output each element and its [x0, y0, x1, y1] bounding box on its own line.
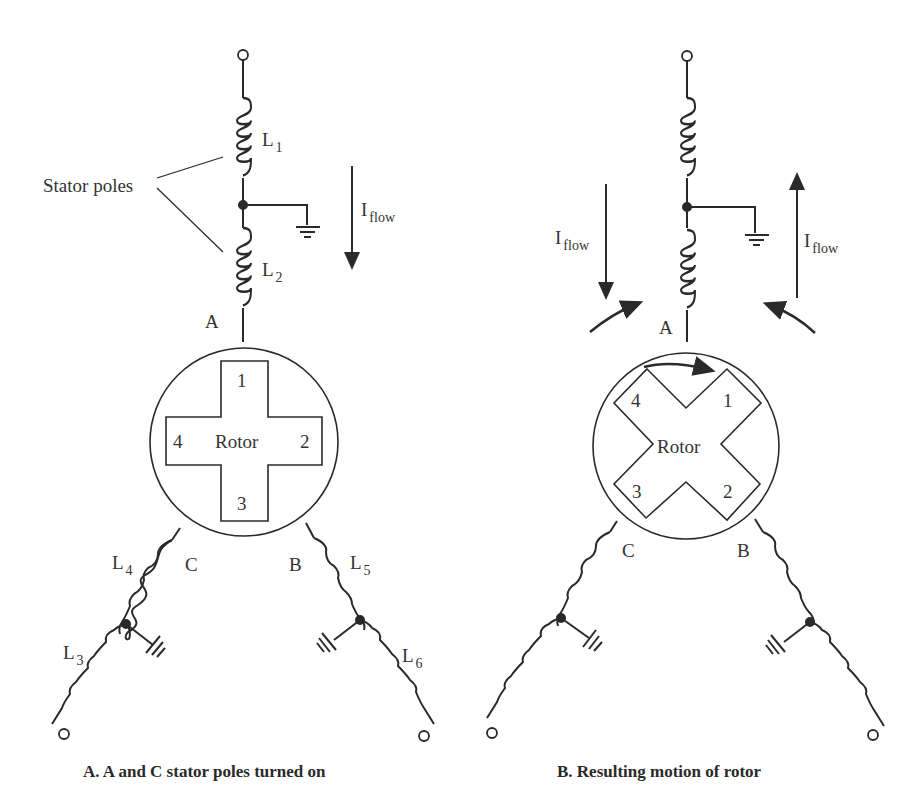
iflow-label-a: Iflow: [361, 200, 395, 219]
caption-b: B. Resulting motion of rotor: [557, 762, 761, 782]
l6-sub: 6: [416, 656, 423, 671]
pole-c-label-b: C: [622, 541, 635, 560]
l1-sub: 1: [276, 140, 283, 155]
rotor-label-b: Rotor: [657, 437, 700, 456]
l5-label: L5: [350, 553, 371, 572]
caption-a: A. A and C stator poles turned on: [83, 762, 325, 782]
stepper-motor-diagram: [0, 0, 921, 799]
pole-b-label-a: B: [289, 555, 302, 574]
rotor-tooth-4-b: 4: [631, 391, 641, 410]
l1-label: L1: [262, 130, 283, 149]
l5-sub: 5: [364, 563, 371, 578]
rotor-tooth-1-b: 1: [723, 391, 733, 410]
iflow-right-sub: flow: [812, 241, 838, 256]
l3-sub: 3: [77, 653, 84, 668]
rotor-tooth-2: 2: [300, 432, 310, 451]
l2-label: L2: [262, 260, 283, 279]
rotor-tooth-3: 3: [237, 494, 247, 513]
rotor-tooth-3-b: 3: [632, 482, 642, 501]
l3-label: L3: [63, 643, 84, 662]
iflow-main: I: [361, 199, 367, 220]
panel-a: [52, 50, 434, 741]
l2-sub: 2: [276, 270, 283, 285]
pole-c-label-a: C: [185, 555, 198, 574]
l2-main: L: [262, 259, 274, 280]
iflow-sub: flow: [369, 210, 395, 225]
pole-a-label: A: [205, 312, 219, 331]
rotor-label-a: Rotor: [215, 432, 258, 451]
terminal-top-a: [238, 50, 248, 60]
panel-b: [487, 51, 884, 740]
stator-poles-label: Stator poles: [43, 176, 133, 195]
l1-main: L: [262, 129, 274, 150]
rotor-tooth-1: 1: [237, 371, 247, 390]
l6-label: L6: [402, 646, 423, 665]
iflow-label-b-left: Iflow: [555, 228, 589, 247]
l6-main: L: [402, 645, 414, 666]
rotor-tooth-2-b: 2: [723, 482, 733, 501]
iflow-right-main: I: [804, 230, 810, 251]
l4-sub: 4: [126, 563, 133, 578]
rotor-tooth-4: 4: [173, 432, 183, 451]
pole-b-label-b: B: [737, 541, 750, 560]
iflow-left-sub: flow: [563, 238, 589, 253]
pole-a-label-b: A: [659, 318, 673, 337]
l3-main: L: [63, 642, 75, 663]
l4-main: L: [112, 552, 124, 573]
l5-main: L: [350, 552, 362, 573]
l4-label: L4: [112, 553, 133, 572]
iflow-left-main: I: [555, 227, 561, 248]
iflow-label-b-right: Iflow: [804, 231, 838, 250]
